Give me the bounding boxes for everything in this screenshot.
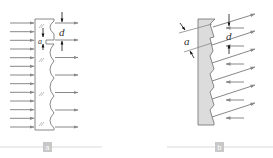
panel-a: d a xyxy=(10,12,78,130)
label-a-b: a xyxy=(184,35,190,47)
incoming-arrows xyxy=(10,23,34,127)
caption-b: b xyxy=(167,142,273,152)
panel-b: a d xyxy=(179,14,255,125)
oblique-arrows xyxy=(212,14,255,117)
diagram-canvas: d a xyxy=(0,0,273,158)
label-d-a: d xyxy=(59,26,65,38)
caption-label-a: a xyxy=(46,144,50,151)
label-a-a: a xyxy=(38,37,42,46)
outgoing-arrows xyxy=(55,23,78,127)
scalloped-plate xyxy=(35,19,54,130)
caption-label-b: b xyxy=(218,144,222,151)
sawtooth-plate xyxy=(198,19,215,125)
label-d-b: d xyxy=(226,30,232,42)
caption-a: a xyxy=(0,142,102,152)
